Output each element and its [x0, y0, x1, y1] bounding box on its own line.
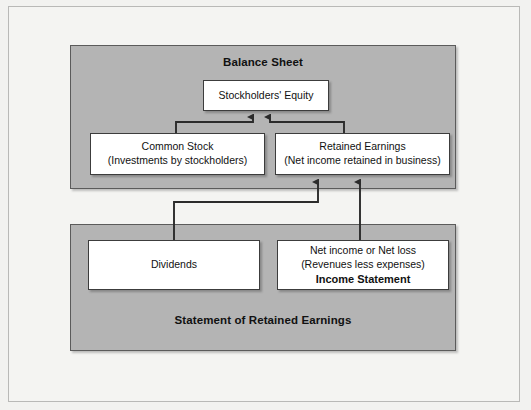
- box-dividends: Dividends: [88, 240, 260, 290]
- box-line: Net income or Net loss: [310, 244, 416, 258]
- box-line: (Net income retained in business): [284, 154, 440, 168]
- box-line-income-statement: Income Statement: [316, 272, 411, 287]
- box-line: Common Stock: [142, 140, 214, 154]
- box-retained-earnings: Retained Earnings (Net income retained i…: [275, 133, 450, 175]
- panel-title-statement-of-retained-earnings: Statement of Retained Earnings: [71, 314, 455, 326]
- diagram-figure: Balance Sheet Statement of Retained Earn…: [0, 0, 531, 410]
- box-income-statement: Net income or Net loss (Revenues less ex…: [277, 240, 449, 290]
- box-line: Stockholders' Equity: [219, 89, 314, 103]
- panel-title-balance-sheet: Balance Sheet: [71, 56, 455, 68]
- box-stockholders-equity: Stockholders' Equity: [203, 80, 329, 111]
- box-line: (Investments by stockholders): [108, 154, 247, 168]
- box-line: Retained Earnings: [319, 140, 405, 154]
- box-line: Dividends: [151, 258, 197, 272]
- box-line: (Revenues less expenses): [301, 258, 425, 272]
- box-common-stock: Common Stock (Investments by stockholder…: [90, 133, 265, 175]
